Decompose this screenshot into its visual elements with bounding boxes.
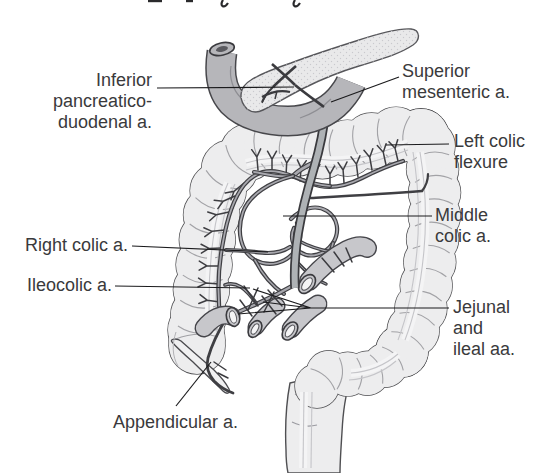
label-right-colic: Right colic a.	[8, 235, 128, 256]
anatomy-figure: Inferior pancreatico- duodenal a. Superi…	[0, 0, 543, 473]
cropped-title-fragment	[148, 0, 300, 6]
label-middle-colic: Middle colic a.	[435, 205, 491, 247]
label-left-colic-flexure: Left colic flexure	[454, 131, 525, 173]
label-jejunal-ileal: Jejunal and ileal aa.	[453, 297, 515, 360]
label-ileocolic: Ileocolic a.	[8, 275, 112, 296]
label-superior-mesenteric: Superior mesenteric a.	[402, 61, 510, 103]
label-appendicular: Appendicular a.	[113, 412, 238, 433]
label-inferior-pancreaticoduodenal: Inferior pancreatico- duodenal a.	[18, 70, 152, 133]
